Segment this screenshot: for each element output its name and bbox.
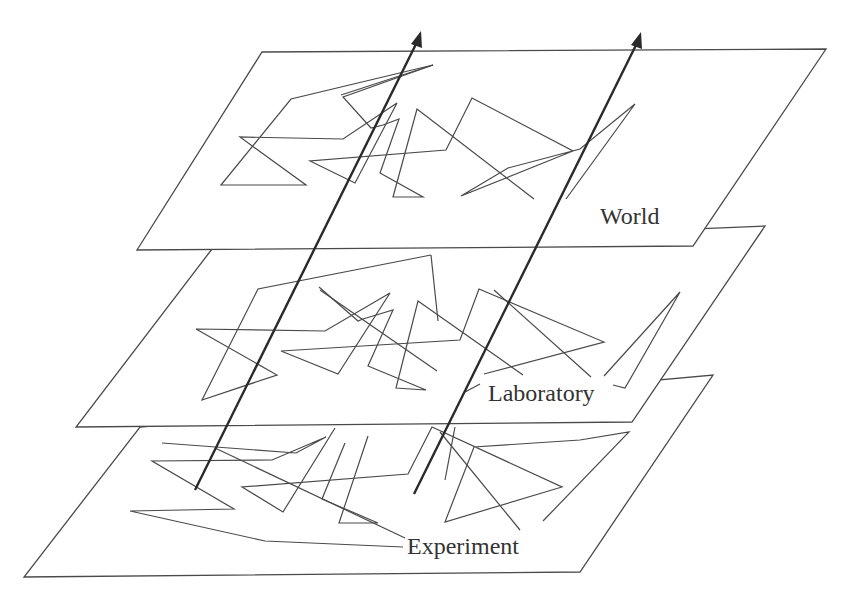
world-label: World [600,203,659,229]
layered-planes-diagram: Experiment Laboratory World [0,0,848,596]
left-arrow-head-icon [411,31,422,48]
world-plane: World [137,49,826,250]
experiment-label: Experiment [407,533,519,559]
laboratory-label: Laboratory [488,380,595,406]
world-plane-surface [137,49,826,250]
right-arrow-head-icon [631,32,642,49]
